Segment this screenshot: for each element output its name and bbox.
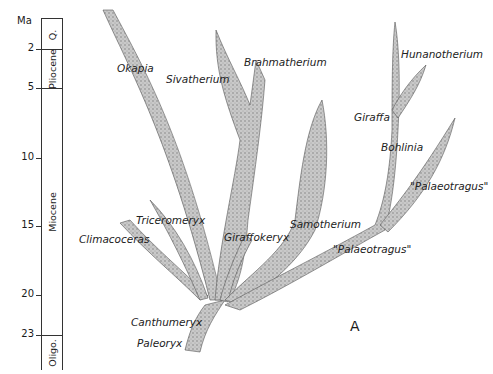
taxon-climacoceras: Climacoceras <box>79 233 149 245</box>
taxon-giraffokeryx: Giraffokeryx <box>224 231 289 243</box>
taxon-giraffa: Giraffa <box>354 111 390 123</box>
taxon-brahmatherium: Brahmatherium <box>244 56 327 68</box>
taxon-triceromeryx: Triceromeryx <box>136 214 205 226</box>
taxon-okapia: Okapia <box>117 62 154 74</box>
taxon-paleoryx: Paleoryx <box>137 337 182 349</box>
taxon-canthumeryx: Canthumeryx <box>131 316 202 328</box>
taxon-hunanotherium: Hunanotherium <box>401 48 483 60</box>
taxon-palaeotragus-upper: "Palaeotragus" <box>410 180 488 192</box>
taxon-sivatherium: Sivatherium <box>166 73 230 85</box>
taxon-samotherium: Samotherium <box>290 218 361 230</box>
panel-letter: A <box>350 318 360 334</box>
taxon-bohlinia: Bohlinia <box>381 141 423 153</box>
taxon-palaeotragus-lower: "Palaeotragus" <box>333 243 411 255</box>
